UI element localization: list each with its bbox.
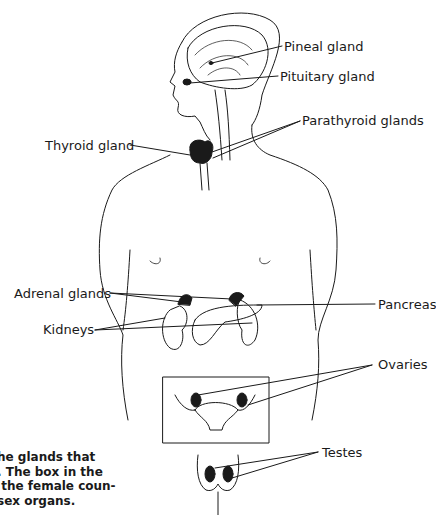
right-testis [223, 466, 233, 482]
trachea [200, 163, 209, 190]
pancreas-leader [257, 304, 375, 305]
right-kidney [237, 300, 258, 345]
caption-line-3: the female coun- [0, 479, 116, 493]
right-ovary [237, 393, 247, 407]
pituitary-leader [190, 76, 278, 83]
spinal-cord [215, 90, 230, 160]
label-parathyroid-glands: Parathyroid glands [302, 114, 424, 127]
left-kidney [163, 306, 188, 349]
arm-lines [123, 250, 316, 330]
torso-outline [99, 125, 337, 420]
thyroid-gland-shape [190, 140, 213, 163]
nipples [150, 258, 270, 264]
left-testis [205, 466, 215, 482]
caption-line-2: . The box in the [0, 465, 103, 479]
label-adrenal-glands: Adrenal glands [14, 287, 111, 300]
pineal-leader [212, 46, 282, 63]
caption-line-4: sex organs. [0, 494, 75, 508]
label-pineal-gland: Pineal gland [284, 40, 363, 53]
label-testes: Testes [322, 446, 362, 459]
figure-caption: he glands that . The box in the the fema… [0, 450, 116, 508]
head-outline [170, 13, 280, 140]
label-pancreas: Pancreas [378, 298, 436, 311]
brain-folds [195, 40, 252, 75]
brain-outline [187, 26, 268, 89]
adrenal-leaders [110, 293, 232, 302]
parathyroid-leaders [212, 121, 300, 158]
label-kidneys: Kidneys [43, 323, 94, 336]
pituitary-gland-shape [183, 79, 191, 85]
ovary-leaders [198, 365, 372, 405]
caption-line-1: he glands that [0, 450, 95, 464]
thyroid-leader [130, 145, 190, 155]
label-ovaries: Ovaries [378, 358, 428, 371]
female-organs-box [163, 377, 269, 443]
label-pituitary-gland: Pituitary gland [280, 70, 375, 83]
label-thyroid-gland: Thyroid gland [45, 139, 134, 152]
